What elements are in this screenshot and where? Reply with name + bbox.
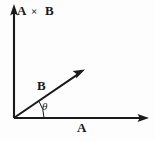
vector-b-label: B [37,79,46,92]
vector-a-label: A [77,121,87,134]
angle-theta-label: θ [42,101,47,112]
vertical-axis-label-a: A [17,4,27,17]
vector-cross-product-diagram: A × B B A θ [0,0,155,141]
cross-product-symbol: × [31,6,37,17]
vector-b-line [15,70,86,118]
vertical-axis-label-b: B [45,4,54,17]
vertical-axis-line [10,4,18,118]
